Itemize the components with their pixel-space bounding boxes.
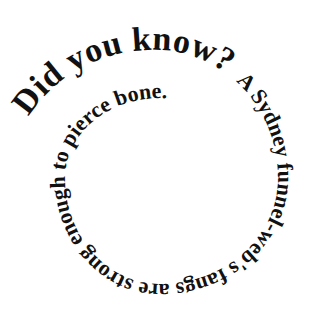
spiral-text: Did you know? A Sydney funnel-web's fang… [4, 20, 298, 304]
fact-text: A Sydney funnel-web's fangs are strong e… [45, 67, 298, 304]
spiral-text-graphic: Did you know? A Sydney funnel-web's fang… [0, 0, 312, 321]
spiral-svg: Did you know? A Sydney funnel-web's fang… [0, 0, 312, 321]
